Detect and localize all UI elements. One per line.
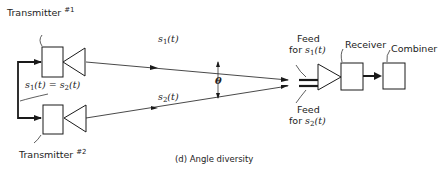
- label-pointer: [387, 50, 390, 62]
- transmitter-number: #1: [64, 6, 74, 14]
- transmitter-label-text: Transmitter: [7, 7, 61, 18]
- label-pointer: [20, 94, 48, 101]
- receive-antenna-icon: [318, 64, 341, 90]
- combiner-label: Combiner: [391, 43, 437, 54]
- beam-s2-label: s2(t): [158, 91, 179, 106]
- signal-equation: s1(t) = s2(t): [25, 79, 80, 94]
- beam-s1-label: s1(t): [158, 33, 179, 48]
- horn-antenna-icon: [63, 48, 85, 76]
- beam-s2: [86, 85, 289, 118]
- label-pointer: [341, 49, 343, 62]
- label-pointer: [40, 35, 42, 46]
- beam-s1: [86, 62, 289, 82]
- receiver-box: [341, 63, 363, 90]
- label-pointer: [296, 65, 306, 77]
- angle-theta-label: θ: [215, 75, 222, 86]
- receiver-feeds: [299, 80, 318, 86]
- receiver-label: Receiver: [345, 39, 386, 50]
- transmitter-number: #2: [76, 148, 86, 156]
- figure-caption: (d) Angle diversity: [175, 154, 253, 165]
- transmitter-1-label: Transmitter #1: [7, 5, 75, 18]
- label-pointer: [296, 90, 306, 103]
- transmitter-1: [42, 47, 85, 77]
- transmitter-label-text: Transmitter: [19, 149, 73, 160]
- transmitter-2-label: Transmitter #2: [19, 147, 87, 160]
- feed-s1-label: Feed for s1(t): [289, 33, 326, 59]
- combiner-box: [383, 63, 405, 89]
- label-pointer: [34, 135, 41, 143]
- feed-s2-label: Feed for s2(t): [289, 104, 326, 130]
- horn-antenna-icon: [64, 105, 86, 132]
- transmitter-2: [43, 105, 86, 134]
